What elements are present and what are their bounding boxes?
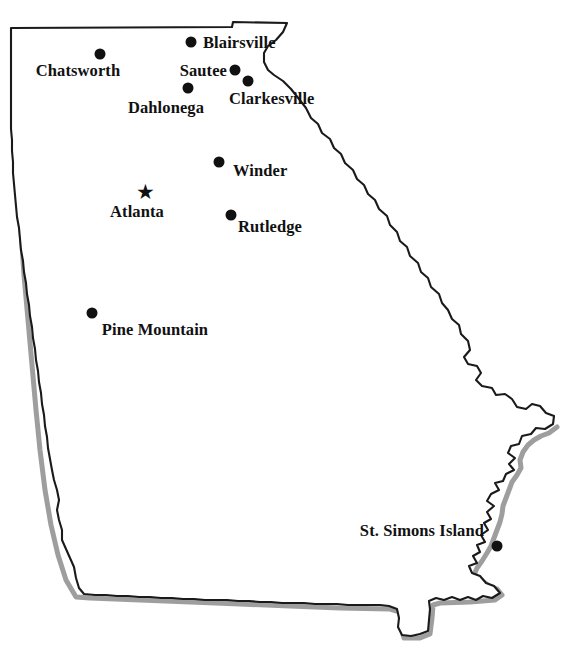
city-dot-marker-st-simons-island[interactable] <box>492 541 503 552</box>
city-label-pine-mountain[interactable]: Pine Mountain <box>102 320 208 340</box>
city-dot-marker-chatsworth[interactable] <box>95 49 106 60</box>
city-markers-layer: BlairsvilleChatsworthSauteeClarkesvilleD… <box>0 0 572 663</box>
city-label-dahlonega[interactable]: Dahlonega <box>128 98 204 118</box>
city-dot-marker-blairsville[interactable] <box>186 37 197 48</box>
city-dot-marker-dahlonega[interactable] <box>183 83 194 94</box>
city-dot-marker-winder[interactable] <box>214 157 225 168</box>
city-label-chatsworth[interactable]: Chatsworth <box>36 61 120 81</box>
city-label-winder[interactable]: Winder <box>233 161 287 181</box>
city-dot-marker-sautee[interactable] <box>230 65 241 76</box>
city-label-atlanta[interactable]: Atlanta <box>110 202 164 222</box>
city-dot-marker-clarkesville[interactable] <box>243 76 254 87</box>
georgia-locator-map: BlairsvilleChatsworthSauteeClarkesvilleD… <box>0 0 572 663</box>
city-dot-marker-rutledge[interactable] <box>226 210 237 221</box>
city-label-clarkesville[interactable]: Clarkesville <box>229 89 315 109</box>
capital-star-marker-atlanta[interactable]: ★ <box>136 182 155 203</box>
city-dot-marker-pine-mountain[interactable] <box>87 308 98 319</box>
city-label-rutledge[interactable]: Rutledge <box>238 217 302 237</box>
city-label-blairsville[interactable]: Blairsville <box>203 33 276 53</box>
city-label-st-simons-island[interactable]: St. Simons Island <box>360 521 484 541</box>
city-label-sautee[interactable]: Sautee <box>180 61 227 81</box>
